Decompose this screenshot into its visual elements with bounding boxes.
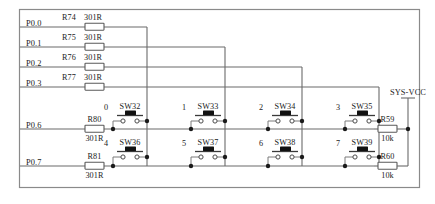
schematic-border [20, 10, 420, 188]
resistor-label-r81-value: 301R [85, 171, 104, 180]
port-label-p06: P0.6 [26, 121, 42, 130]
port-label-p00: P0.0 [26, 19, 42, 28]
switch-sw35[interactable] [343, 111, 381, 132]
switch-index-sw39: 7 [336, 139, 340, 148]
resistor-r75 [85, 43, 104, 50]
switch-sw36[interactable] [111, 147, 149, 169]
switch-index-sw33: 1 [182, 103, 186, 112]
switch-index-sw34: 2 [259, 103, 263, 112]
switch-label-sw39: SW39 [352, 138, 373, 147]
switch-sw39[interactable] [343, 147, 381, 169]
resistor-r74 [85, 23, 104, 30]
resistor-label-r60-value: 10k [381, 171, 394, 180]
switch-sw33[interactable] [189, 111, 227, 132]
switch-label-sw37: SW37 [198, 138, 219, 147]
resistor-r59 [378, 125, 397, 132]
resistor-label-r74-ref: R74 [62, 13, 76, 22]
junction-sysvcc-r59 [406, 127, 410, 131]
schematic-diagram: P0.0 P0.1 P0.2 P0.3 P0.6 P0.7 R74 301R R… [0, 0, 435, 204]
port-label-p01: P0.1 [26, 39, 42, 48]
resistor-label-r81-ref: R81 [88, 152, 102, 161]
port-label-p02: P0.2 [26, 59, 42, 68]
resistor-r76 [85, 63, 104, 70]
switch-index-sw38: 6 [259, 139, 263, 148]
switch-label-sw36: SW36 [120, 138, 141, 147]
switch-index-sw36: 4 [104, 139, 108, 148]
schematic-canvas: P0.0 P0.1 P0.2 P0.3 P0.6 P0.7 R74 301R R… [0, 0, 435, 204]
resistor-r77 [85, 83, 104, 90]
resistor-label-r77-value: 301R [84, 73, 103, 82]
resistor-label-r60-ref: R60 [381, 152, 395, 161]
resistor-label-r59-ref: R59 [381, 115, 395, 124]
switch-label-sw38: SW38 [275, 138, 296, 147]
resistor-label-r80-value: 301R [85, 134, 104, 143]
switch-label-sw34: SW34 [275, 102, 296, 111]
resistor-label-r77-ref: R77 [62, 73, 76, 82]
resistor-label-r76-value: 301R [84, 53, 103, 62]
switch-index-sw32: 0 [104, 103, 108, 112]
net-label-sys-vcc: SYS-VCC [390, 88, 426, 97]
resistor-label-r75-ref: R75 [62, 33, 76, 42]
switch-index-sw37: 5 [182, 139, 186, 148]
switch-sw37[interactable] [189, 147, 227, 169]
switch-index-sw35: 3 [336, 103, 340, 112]
resistor-label-r75-value: 301R [84, 33, 103, 42]
switch-label-sw35: SW35 [352, 102, 373, 111]
port-label-p03: P0.3 [26, 79, 42, 88]
resistor-label-r59-value: 10k [381, 134, 394, 143]
switch-sw32[interactable] [111, 111, 149, 132]
resistor-r81 [85, 162, 104, 169]
switch-label-sw32: SW32 [120, 102, 141, 111]
switch-sw34[interactable] [266, 111, 304, 132]
switch-sw38[interactable] [266, 147, 304, 169]
resistor-r80 [85, 125, 104, 132]
resistor-label-r74-value: 301R [84, 13, 103, 22]
resistor-r60 [378, 162, 397, 169]
port-label-p07: P0.7 [26, 158, 42, 167]
resistor-label-r76-ref: R76 [62, 53, 76, 62]
resistor-label-r80-ref: R80 [88, 115, 102, 124]
switch-label-sw33: SW33 [198, 102, 219, 111]
